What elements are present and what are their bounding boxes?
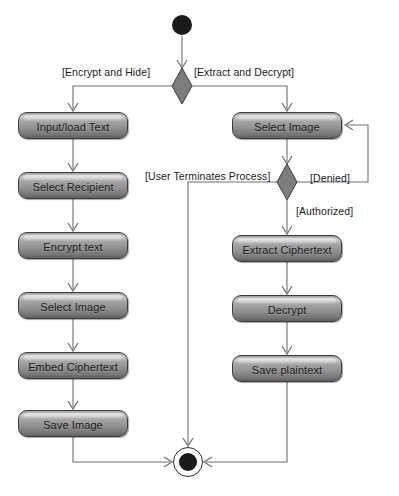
activity-label: Select Image xyxy=(40,299,105,313)
edge-save-plaintext-to-end xyxy=(206,382,287,462)
activity-label: Encrypt text xyxy=(43,239,102,253)
edge-mode-decision-to-input-load-text xyxy=(73,86,172,109)
initial-node[interactable] xyxy=(172,15,192,35)
activity-label: Select Recipient xyxy=(32,179,113,193)
activity-label: Save plaintext xyxy=(252,362,323,376)
activity-node-embed-ciphertext[interactable]: Embed Ciphertext xyxy=(18,352,128,379)
activity-node-input-load-text[interactable]: Input/load Text xyxy=(18,112,128,139)
activity-node-select-image-left[interactable]: Select Image xyxy=(18,292,128,319)
activity-node-encrypt-text[interactable]: Encrypt text xyxy=(18,232,128,259)
authorization-decision-diamond[interactable] xyxy=(277,164,297,200)
activity-label: Decrypt xyxy=(268,302,307,316)
activity-node-select-image-right[interactable]: Select Image xyxy=(232,112,342,139)
guard-label-encrypt-and-hide: [Encrypt and Hide] xyxy=(62,66,150,78)
activity-node-extract-ciphertext[interactable]: Extract Ciphertext xyxy=(232,235,342,262)
final-node[interactable] xyxy=(173,447,203,477)
edge-mode-decision-to-select-image-right xyxy=(192,86,287,109)
guard-label-denied: [Denied] xyxy=(310,172,350,184)
activity-node-decrypt[interactable]: Decrypt xyxy=(232,295,342,322)
activity-label: Save Image xyxy=(43,417,103,431)
guard-label-authorized: [Authorized] xyxy=(296,205,353,217)
edge-save-image-to-end xyxy=(73,437,170,462)
mode-decision-diamond[interactable] xyxy=(172,68,192,104)
guard-label-user-terminates-process: [User Terminates Process] xyxy=(145,170,270,182)
activity-node-select-recipient[interactable]: Select Recipient xyxy=(18,172,128,199)
activity-node-save-plaintext[interactable]: Save plaintext xyxy=(232,355,342,382)
activity-label: Extract Ciphertext xyxy=(242,242,331,256)
final-node-inner-dot xyxy=(179,453,197,471)
activity-diagram-canvas: Input/load Text Select Recipient Encrypt… xyxy=(0,0,399,496)
activity-node-save-image[interactable]: Save Image xyxy=(18,410,128,437)
activity-label: Input/load Text xyxy=(37,119,110,133)
activity-label: Select Image xyxy=(254,119,319,133)
guard-label-extract-and-decrypt: [Extract and Decrypt] xyxy=(194,66,294,78)
activity-label: Embed Ciphertext xyxy=(28,359,118,373)
